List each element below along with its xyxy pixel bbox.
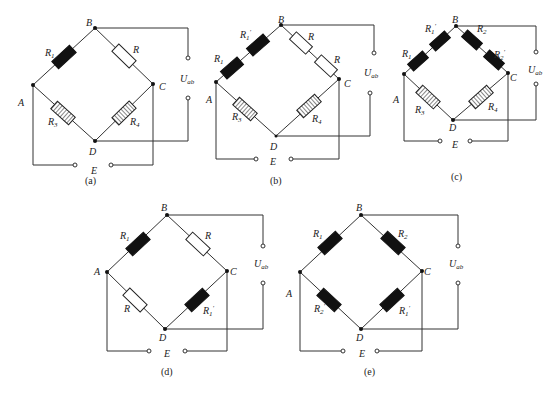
output-terminal-bottom bbox=[186, 96, 190, 100]
node-a bbox=[214, 80, 218, 84]
label-r2: R2 bbox=[476, 23, 487, 36]
node-d bbox=[163, 327, 167, 331]
label-r3: R3 bbox=[47, 116, 58, 129]
node-a bbox=[105, 270, 109, 274]
output-terminal-bottom bbox=[534, 82, 538, 86]
label-d: D bbox=[88, 146, 97, 157]
label-a: A bbox=[17, 97, 25, 108]
label-r2-prime: R2′ bbox=[313, 302, 326, 316]
label-r1: R1 bbox=[312, 228, 323, 241]
label-d: D bbox=[158, 332, 167, 343]
supply-terminal-right bbox=[375, 349, 379, 353]
label-b: B bbox=[356, 202, 362, 213]
label-r1-prime: R1′ bbox=[424, 22, 437, 36]
output-wire-bottom bbox=[453, 84, 536, 120]
node-c bbox=[225, 269, 229, 273]
label-d: D bbox=[355, 332, 364, 343]
output-terminal-top bbox=[186, 56, 190, 60]
label-r4: R4 bbox=[311, 113, 322, 126]
strain-gauge-r1-prime bbox=[246, 34, 269, 56]
label-r1: R1 bbox=[44, 47, 55, 60]
output-wire-bottom bbox=[276, 94, 370, 136]
label-b: B bbox=[161, 202, 167, 213]
label-r1: R1 bbox=[401, 48, 412, 61]
output-wire-top bbox=[167, 215, 263, 245]
label-c: C bbox=[230, 266, 237, 277]
supply-terminal-left bbox=[438, 139, 442, 143]
caption-d: (d) bbox=[161, 366, 173, 378]
subfigure-a: B A C D E R1 R R3 R4 Uab (a) bbox=[17, 17, 195, 187]
label-r2-prime: R2′ bbox=[493, 48, 506, 62]
caption-a: (a) bbox=[85, 175, 96, 187]
label-a: A bbox=[93, 266, 101, 277]
label-e: E bbox=[451, 139, 458, 150]
node-b bbox=[165, 213, 169, 217]
label-e: E bbox=[269, 156, 276, 167]
node-b bbox=[93, 26, 97, 30]
output-terminal-bottom bbox=[261, 281, 265, 285]
node-a bbox=[31, 83, 35, 87]
supply-terminal-left bbox=[254, 157, 258, 161]
node-a bbox=[298, 270, 302, 274]
supply-terminal-left bbox=[341, 349, 345, 353]
output-wire-top bbox=[95, 28, 188, 57]
label-uab: Uab bbox=[180, 73, 195, 86]
output-terminal-bottom bbox=[368, 91, 372, 95]
output-terminal-bottom bbox=[456, 281, 460, 285]
label-r-bottom: R bbox=[123, 303, 130, 314]
label-uab: Uab bbox=[449, 258, 464, 271]
supply-terminal-right bbox=[289, 157, 293, 161]
node-b bbox=[359, 213, 363, 217]
label-b: B bbox=[452, 14, 458, 25]
output-terminal-top bbox=[534, 50, 538, 54]
bridge-circuits-figure: B A C D E R1 R R3 R4 Uab (a) B A C D bbox=[0, 0, 559, 401]
output-terminal-top bbox=[456, 244, 460, 248]
label-b: B bbox=[86, 17, 92, 28]
subfigure-d: B A C D E R1 R R R1′ Uab (d) bbox=[93, 202, 269, 378]
node-d bbox=[93, 139, 97, 143]
label-d: D bbox=[269, 141, 278, 152]
supply-terminal-left bbox=[147, 349, 151, 353]
label-r4: R4 bbox=[487, 101, 498, 114]
label-uab: Uab bbox=[254, 258, 269, 271]
label-r: R bbox=[132, 44, 139, 55]
label-e: E bbox=[358, 348, 365, 359]
label-r3: R3 bbox=[414, 104, 425, 117]
output-terminal-top bbox=[261, 244, 265, 248]
label-r1-prime: R1′ bbox=[398, 304, 411, 318]
label-b: B bbox=[278, 14, 284, 25]
subfigure-c: B A C D E R1 R1′ R2 R2′ R3 R4 Uab (c) bbox=[392, 14, 543, 183]
supply-terminal-right bbox=[468, 139, 472, 143]
label-r3: R3 bbox=[231, 111, 242, 124]
label-a: A bbox=[205, 94, 213, 105]
label-uab: Uab bbox=[364, 67, 379, 80]
supply-terminal-right bbox=[183, 349, 187, 353]
label-r1: R1 bbox=[213, 53, 224, 66]
label-r1-prime: R1′ bbox=[202, 304, 215, 318]
label-r4: R4 bbox=[129, 116, 140, 129]
subfigure-e: B A C D E R1 R2 R2′ R1′ Uab (e) bbox=[285, 202, 464, 378]
supply-terminal-left bbox=[73, 163, 77, 167]
label-d: D bbox=[448, 122, 457, 133]
label-r1-prime: R1′ bbox=[239, 28, 252, 42]
label-r2: R2 bbox=[397, 228, 408, 241]
label-c: C bbox=[510, 72, 517, 83]
caption-e: (e) bbox=[364, 366, 375, 378]
strain-gauge-r1 bbox=[52, 45, 76, 69]
output-wire-bottom bbox=[95, 99, 188, 141]
label-e: E bbox=[163, 348, 170, 359]
label-a: A bbox=[392, 94, 400, 105]
node-a bbox=[402, 72, 406, 76]
strain-gauge-r1 bbox=[220, 57, 243, 79]
label-r-top: R bbox=[204, 230, 211, 241]
label-r-lower: R bbox=[333, 54, 340, 65]
caption-c: (c) bbox=[451, 171, 462, 183]
node-d bbox=[359, 327, 363, 331]
label-a: A bbox=[285, 288, 293, 299]
label-c: C bbox=[344, 78, 351, 89]
subfigure-b: B A C D E R1 R1′ R R R3 R4 Uab (b) bbox=[205, 14, 379, 187]
output-terminal-top bbox=[372, 51, 376, 55]
caption-b: (b) bbox=[270, 175, 282, 187]
label-uab: Uab bbox=[528, 64, 543, 77]
supply-terminal-right bbox=[109, 163, 113, 167]
